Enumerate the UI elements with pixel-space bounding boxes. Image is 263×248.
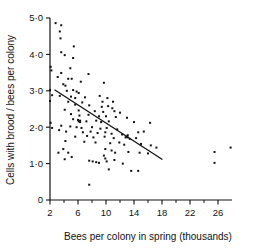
data-point: [58, 129, 60, 131]
x-tick-label: 26: [213, 207, 224, 218]
data-point: [82, 131, 84, 133]
data-point: [115, 116, 117, 118]
data-point: [95, 120, 97, 122]
data-point: [88, 104, 90, 106]
data-point: [64, 109, 66, 111]
tick-labels-group: 01·02·03·04·05·0261014182226: [29, 12, 223, 218]
axes-group: [50, 18, 232, 200]
data-point: [108, 168, 110, 170]
data-point: [73, 45, 75, 47]
data-point: [83, 141, 85, 143]
data-point: [111, 133, 113, 135]
y-tick-label: 2·0: [29, 122, 43, 133]
x-tick-label: 14: [129, 207, 140, 218]
data-point: [135, 137, 137, 139]
data-point: [64, 140, 66, 142]
data-point: [64, 85, 66, 87]
data-point: [64, 54, 66, 56]
data-point: [112, 101, 114, 103]
data-point: [79, 121, 81, 123]
data-point: [104, 131, 106, 133]
data-point: [88, 114, 90, 116]
data-point: [109, 142, 111, 144]
data-point: [105, 115, 107, 117]
data-point: [55, 22, 57, 24]
data-point: [71, 156, 73, 158]
data-point: [69, 125, 71, 127]
data-point: [92, 160, 94, 162]
data-point: [119, 112, 121, 114]
data-point: [111, 107, 113, 109]
data-point: [103, 155, 105, 157]
data-point: [99, 95, 101, 97]
data-point: [69, 67, 71, 69]
data-point: [127, 151, 129, 153]
data-point: [126, 117, 128, 119]
data-point: [84, 96, 86, 98]
data-point: [214, 162, 216, 164]
y-tick-label: 5·0: [29, 12, 43, 23]
y-axis-title: Cells with brood / bees per colony: [5, 35, 16, 185]
data-point: [143, 131, 145, 133]
data-point: [70, 113, 72, 115]
data-point: [78, 109, 80, 111]
data-point: [59, 95, 61, 97]
data-point: [59, 30, 61, 32]
data-point: [70, 96, 72, 98]
data-point: [88, 73, 90, 75]
data-point: [76, 91, 78, 93]
data-point: [71, 78, 73, 80]
data-point: [104, 158, 106, 160]
y-tick-label: 1·0: [29, 158, 43, 169]
data-point: [85, 120, 87, 122]
data-point: [137, 131, 139, 133]
data-point: [149, 122, 151, 124]
x-tick-label: 22: [185, 207, 196, 218]
data-point: [107, 105, 109, 107]
data-point: [113, 110, 115, 112]
data-point: [139, 152, 141, 154]
data-point: [90, 131, 92, 133]
regression-line: [55, 90, 162, 159]
data-point: [67, 78, 69, 80]
data-point: [67, 101, 69, 103]
data-point: [91, 126, 93, 128]
data-point: [74, 97, 76, 99]
data-point: [72, 118, 74, 120]
data-point: [130, 170, 132, 172]
data-point: [230, 147, 232, 149]
x-tick-label: 2: [47, 207, 52, 218]
data-point: [60, 24, 62, 26]
data-point: [50, 122, 52, 124]
trend-line-group: [55, 90, 162, 159]
data-point: [98, 115, 100, 117]
plot-area: 01·02·03·04·05·0261014182226 Bees per co…: [0, 0, 263, 248]
x-tick-label: 6: [75, 207, 80, 218]
data-point: [78, 92, 80, 94]
data-point: [97, 132, 99, 134]
data-point: [76, 126, 78, 128]
data-point: [95, 141, 97, 143]
data-point: [102, 111, 104, 113]
x-axis-title: Bees per colony in spring (thousands): [64, 231, 232, 242]
data-point: [62, 83, 64, 85]
data-point: [60, 125, 62, 127]
data-point: [104, 148, 106, 150]
data-point: [99, 128, 101, 130]
data-point: [74, 136, 76, 138]
data-point: [62, 148, 64, 150]
data-point: [155, 147, 157, 149]
y-tick-label: 4·0: [29, 49, 43, 60]
data-point: [103, 82, 105, 84]
data-point: [106, 127, 108, 129]
data-point: [106, 160, 108, 162]
ticks-group: [46, 18, 218, 205]
data-point: [94, 110, 96, 112]
data-point: [104, 136, 106, 138]
data-point: [67, 152, 69, 154]
data-point: [51, 127, 53, 129]
data-point: [108, 120, 110, 122]
data-point: [72, 57, 74, 59]
data-point: [88, 184, 90, 186]
data-point: [49, 89, 51, 91]
